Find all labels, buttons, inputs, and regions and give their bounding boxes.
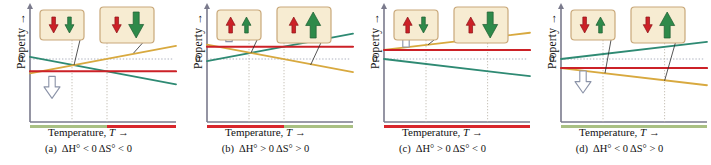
x-axis-label: Temperature, T → [0, 126, 177, 138]
caption-entropy-condition: ΔS° < 0 [99, 143, 132, 154]
caption-entropy-condition: ΔS° > 0 [630, 143, 663, 154]
y-axis-zero-tick: 0 [195, 53, 201, 64]
panel-a: ΔG°ΔH°TΔS°Property →0Temperature, T →(a)… [0, 0, 177, 165]
plot-area: ΔG°ΔH°TΔS°Property →0 [0, 0, 177, 128]
caption-enthalpy-condition: ΔH° > 0 [239, 143, 274, 154]
y-axis-zero-tick: 0 [549, 53, 555, 64]
caption-tag: (d) [576, 143, 588, 154]
panel-d: TΔS°ΔH°ΔG°Property →0Temperature, T →(d)… [531, 0, 708, 165]
panel-caption: (b)ΔH° > 0ΔS° > 0 [177, 143, 354, 154]
panel-c: ΔG°ΔH°TΔS°Property →0Temperature, T →(c)… [354, 0, 531, 165]
caption-entropy-condition: ΔS° > 0 [276, 143, 309, 154]
x-axis-label: Temperature, T → [177, 126, 354, 138]
y-axis-label: Property → [15, 0, 29, 84]
panel-caption: (d)ΔH° < 0ΔS° > 0 [531, 143, 708, 154]
plot-area: TΔS°ΔH°ΔG°Property →0 [531, 0, 708, 128]
y-axis-label: Property → [546, 0, 560, 84]
figure-root: ΔG°ΔH°TΔS°Property →0Temperature, T →(a)… [0, 0, 711, 165]
panel-b: TΔS°ΔH°ΔG°Property →0Temperature, T →(b)… [177, 0, 354, 165]
caption-entropy-condition: ΔS° < 0 [453, 143, 486, 154]
x-axis-label: Temperature, T → [354, 126, 531, 138]
panel-caption: (a)ΔH° < 0ΔS° < 0 [0, 143, 177, 154]
plot-area: ΔG°ΔH°TΔS°Property →0 [354, 0, 531, 128]
plot-area: TΔS°ΔH°ΔG°Property →0 [177, 0, 354, 128]
x-axis-label: Temperature, T → [531, 126, 708, 138]
caption-tag: (b) [222, 143, 234, 154]
caption-enthalpy-condition: ΔH° < 0 [62, 143, 97, 154]
y-axis-zero-tick: 0 [18, 53, 24, 64]
y-axis-label: Property → [192, 0, 206, 84]
panel-caption: (c)ΔH° > 0ΔS° < 0 [354, 143, 531, 154]
y-axis-zero-tick: 0 [372, 53, 378, 64]
caption-enthalpy-condition: ΔH° < 0 [593, 143, 628, 154]
caption-enthalpy-condition: ΔH° > 0 [416, 143, 451, 154]
y-axis-label: Property → [369, 0, 383, 84]
caption-tag: (a) [45, 143, 57, 154]
caption-tag: (c) [399, 143, 411, 154]
